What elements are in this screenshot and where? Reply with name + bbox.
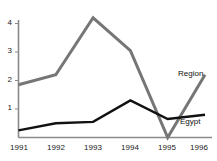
y-tick-label-1: 1 (3, 103, 12, 112)
y-tick-label-3: 3 (3, 46, 12, 55)
y-tick-label-2: 2 (3, 75, 12, 84)
series-line-egypt (19, 100, 206, 130)
chart-plot-area (0, 0, 217, 161)
x-tick-label-1992: 1992 (43, 143, 69, 152)
series-label-region: Region (178, 69, 203, 78)
x-tick-label-1996: 1996 (186, 143, 212, 152)
series-label-egypt: Egypt (180, 117, 200, 126)
x-tick-label-1995: 1995 (154, 143, 180, 152)
y-tick-label-4: 4 (3, 18, 12, 27)
line-chart: Billions of U.S. dollars 4 3 2 1 1991 19… (0, 0, 217, 161)
x-tick-label-1994: 1994 (117, 143, 143, 152)
x-tick-label-1991: 1991 (6, 143, 32, 152)
x-tick-label-1993: 1993 (80, 143, 106, 152)
